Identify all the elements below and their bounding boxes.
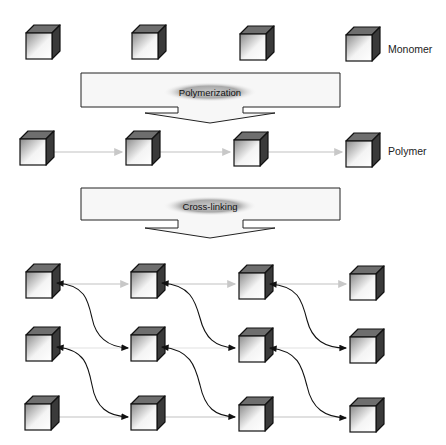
- network-cube: [350, 266, 384, 300]
- network-cube: [239, 328, 273, 362]
- network-cube: [26, 327, 60, 361]
- monomer-cube: [240, 26, 274, 60]
- monomer-cube: [346, 27, 380, 61]
- network-cube: [239, 397, 273, 431]
- polymerization-label: Polymerization: [179, 87, 241, 98]
- monomer-row: Monomer: [26, 25, 433, 61]
- network-cube: [26, 264, 60, 298]
- network-cube: [25, 396, 59, 430]
- polymerization-step-arrow: Polymerization: [81, 73, 340, 123]
- polymer-cube: [20, 131, 54, 165]
- crosslinks: [57, 283, 346, 418]
- network-cube: [239, 265, 273, 299]
- polymer-cube: [126, 131, 160, 165]
- polymerization-diagram: Monomer Polymerization Polymer Cross-lin…: [0, 0, 446, 445]
- monomer-cube: [26, 25, 60, 59]
- monomer-label: Monomer: [388, 43, 433, 55]
- network-cube: [350, 329, 384, 363]
- monomer-cube: [132, 25, 166, 59]
- polymer-cube: [234, 132, 268, 166]
- polymer-row: Polymer: [20, 131, 427, 167]
- network-cube: [131, 327, 165, 361]
- network-cube: [131, 264, 165, 298]
- polymer-cube: [346, 133, 380, 167]
- crosslinking-step-arrow: Cross-linking: [81, 188, 340, 238]
- polymer-label: Polymer: [388, 145, 427, 157]
- network-cube: [131, 396, 165, 430]
- network-cube: [350, 398, 384, 432]
- crosslinking-label: Cross-linking: [183, 201, 238, 212]
